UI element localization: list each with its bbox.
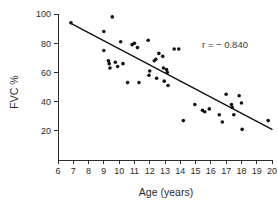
data-point [146, 38, 150, 42]
data-point [224, 93, 228, 97]
y-tick-label: 100 [36, 9, 51, 19]
data-point [182, 119, 186, 123]
x-tick-label: 20 [267, 166, 277, 176]
figure-caption-partial [14, 202, 264, 206]
data-point [102, 30, 106, 34]
x-tick-label: 7 [71, 166, 76, 176]
x-tick-label: 13 [160, 166, 170, 176]
data-point [165, 71, 169, 75]
data-point [126, 81, 130, 85]
data-point [172, 47, 176, 51]
data-point [240, 128, 244, 132]
data-point [193, 103, 197, 107]
x-tick-label: 18 [236, 166, 246, 176]
data-point [162, 66, 166, 70]
scatter-plot-figure: 20406080100 67891011121314151617181920 r… [0, 0, 278, 206]
data-point [137, 81, 141, 85]
data-point [148, 69, 152, 73]
data-point [110, 15, 114, 19]
data-point [230, 106, 234, 110]
x-tick-label: 19 [252, 166, 262, 176]
y-tick-label: 80 [41, 39, 51, 49]
data-point [121, 62, 125, 66]
data-point [116, 65, 120, 69]
data-point [102, 49, 106, 53]
x-tick-label: 8 [86, 166, 91, 176]
data-point [107, 62, 111, 66]
data-point [133, 41, 137, 45]
data-point [108, 66, 112, 70]
data-point [266, 119, 270, 123]
correlation-annotation: r = − 0.840 [202, 39, 248, 50]
data-point [136, 46, 140, 50]
y-tick-label: 40 [41, 97, 51, 107]
x-tick-label: 15 [191, 166, 201, 176]
data-point [177, 47, 181, 51]
data-point [161, 55, 165, 59]
y-tick-label: 60 [41, 68, 51, 78]
data-points-group [69, 15, 270, 131]
data-point [240, 101, 244, 105]
x-tick-label: 11 [130, 166, 139, 176]
x-axis-title: Age (years) [139, 186, 193, 198]
x-axis-ticks: 67891011121314151617181920 [55, 160, 277, 176]
data-point [155, 76, 159, 80]
x-tick-label: 9 [101, 166, 106, 176]
y-tick-label: 20 [41, 126, 51, 136]
data-point [221, 120, 225, 124]
x-tick-label: 6 [55, 166, 60, 176]
x-tick-label: 16 [206, 166, 216, 176]
data-point [203, 110, 207, 114]
x-tick-label: 14 [175, 166, 185, 176]
data-point [232, 113, 236, 117]
x-tick-label: 10 [114, 166, 124, 176]
data-point [157, 52, 161, 56]
data-point [147, 74, 151, 78]
data-point [166, 84, 170, 88]
x-tick-label: 12 [145, 166, 155, 176]
fvc-vs-age-scatter-chart: 20406080100 67891011121314151617181920 r… [0, 0, 278, 206]
y-axis-title: FVC % [8, 75, 20, 108]
data-point [217, 113, 221, 117]
x-tick-label: 17 [221, 166, 231, 176]
data-point [208, 107, 212, 111]
data-point [162, 79, 166, 83]
y-axis-ticks: 20406080100 [36, 9, 58, 136]
data-point [154, 57, 158, 61]
data-point [237, 94, 241, 98]
data-point [119, 40, 123, 44]
data-point [69, 21, 73, 25]
data-point [114, 60, 118, 64]
